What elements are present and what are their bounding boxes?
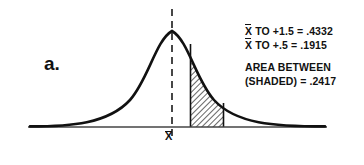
- annotation-spacer: [245, 52, 363, 61]
- annotation-line-4: (SHADED) = .2417: [245, 75, 363, 89]
- shaded-area-region: [190, 20, 224, 127]
- x-bar-symbol: X: [245, 25, 252, 39]
- axis-mean-label: X: [165, 131, 172, 142]
- panel-label: a.: [44, 54, 60, 73]
- annotation-line-2-text: TO +.5 = .1915: [252, 39, 327, 51]
- x-bar-symbol: X: [245, 39, 252, 53]
- annotation-line-2: X TO +.5 = .1915: [245, 39, 363, 53]
- annotation-block: X TO +1.5 = .4332 X TO +.5 = .1915 AREA …: [245, 25, 363, 88]
- annotation-line-1-text: TO +1.5 = .4332: [252, 25, 333, 37]
- x-bar-symbol: X: [165, 131, 172, 142]
- annotation-line-1: X TO +1.5 = .4332: [245, 25, 363, 39]
- normal-curve-figure: a. X X TO +1.5 = .4332 X TO +.5 = .1915 …: [0, 0, 364, 165]
- annotation-line-3: AREA BETWEEN: [245, 61, 363, 75]
